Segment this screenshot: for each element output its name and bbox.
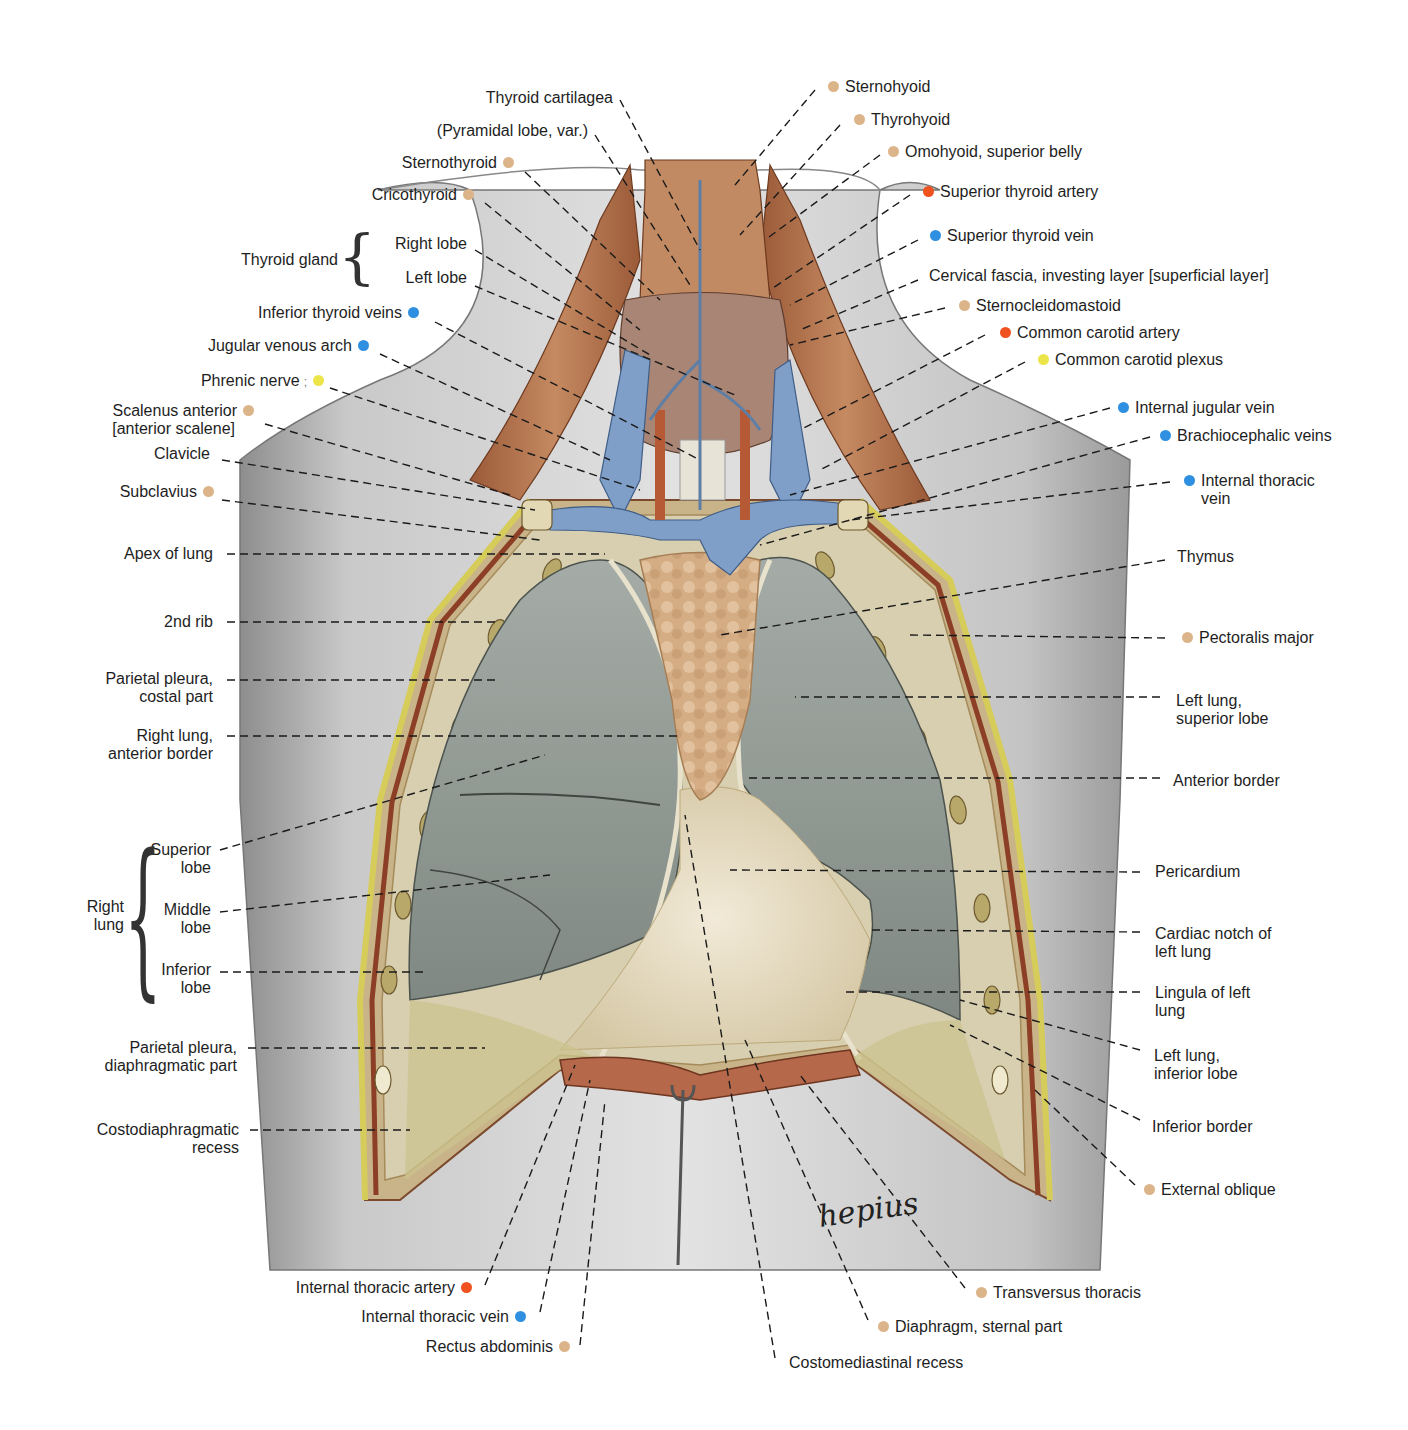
label-text: Middle <box>164 901 211 918</box>
vein-dot-icon <box>1160 430 1171 441</box>
label-common-carotid-artery: Common carotid artery <box>994 324 1180 342</box>
label-pectoralis-major: Pectoralis major <box>1176 629 1314 647</box>
label-internal-jugular-vein: Internal jugular vein <box>1112 399 1275 417</box>
label-text: Scalenus anterior <box>112 402 237 419</box>
label-superior-thyroid-vein: Superior thyroid vein <box>924 227 1094 245</box>
label-subclavius: Subclavius <box>60 483 220 501</box>
muscle-dot-icon <box>828 81 839 92</box>
label-text: [anterior scalene] <box>112 420 235 437</box>
label-text: Sternocleidomastoid <box>976 297 1121 314</box>
label-text: Thyroid gland <box>241 251 338 268</box>
label-text: diaphragmatic part <box>104 1057 237 1074</box>
nerve-dot-icon <box>313 375 324 386</box>
label-clavicle: Clavicle <box>60 445 210 463</box>
label-diaphragm-sternal-part: Diaphragm, sternal part <box>872 1318 1062 1336</box>
label-text: Cricothyroid <box>372 186 457 203</box>
label-omohyoid: Omohyoid, superior belly <box>882 143 1082 161</box>
label-internal-thoracic-artery: Internal thoracic artery <box>240 1279 478 1297</box>
label-cricothyroid: Cricothyroid <box>320 186 480 204</box>
label-text: Cardiac notch of <box>1155 925 1272 942</box>
label-text: Internal thoracic artery <box>296 1279 455 1296</box>
muscle-dot-icon <box>559 1341 570 1352</box>
label-pyramidal-lobe: (Pyramidal lobe, var.) <box>400 122 588 140</box>
label-left-lobe: Left lobe <box>360 269 467 287</box>
label-text: costal part <box>139 688 213 705</box>
label-text: superior lobe <box>1176 710 1269 727</box>
label-thyrohyoid: Thyrohyoid <box>848 111 950 129</box>
label-text: vein <box>1178 490 1230 507</box>
label-parietal-pleura-costal: Parietal pleura,costal part <box>60 670 213 706</box>
label-left-lung-inferior-lobe: Left lung,inferior lobe <box>1154 1047 1238 1083</box>
label-thyroid-cartilagea: Thyroid cartilagea <box>445 89 613 107</box>
label-text: Thymus <box>1177 548 1234 565</box>
vein-dot-icon <box>930 230 941 241</box>
vein-dot-icon <box>1184 475 1195 486</box>
label-cervical-fascia: Cervical fascia, investing layer [superf… <box>929 267 1269 285</box>
label-parietal-pleura-diaphragmatic: Parietal pleura,diaphragmatic part <box>60 1039 237 1075</box>
label-text: inferior lobe <box>1154 1065 1238 1082</box>
label-text: Lingula of left <box>1155 984 1250 1001</box>
label-text: Inferior <box>161 961 211 978</box>
label-brachiocephalic-veins: Brachiocephalic veins <box>1154 427 1332 445</box>
label-text: Transversus thoracis <box>993 1284 1141 1301</box>
label-text: recess <box>192 1139 239 1156</box>
label-superior-thyroid-artery: Superior thyroid artery <box>917 183 1098 201</box>
vein-dot-icon <box>515 1311 526 1322</box>
label-text: Inferior border <box>1152 1118 1253 1135</box>
label-right-lung-anterior-border: Right lung,anterior border <box>60 727 213 763</box>
label-text: anterior border <box>108 745 213 762</box>
label-text: Left lobe <box>406 269 467 286</box>
muscle-dot-icon <box>503 157 514 168</box>
label-sternothyroid: Sternothyroid <box>360 154 520 172</box>
muscle-dot-icon <box>243 405 254 416</box>
nerve-dot-icon <box>1038 354 1049 365</box>
label-text: Left lung, <box>1176 692 1242 709</box>
label-right-lobe: Right lobe <box>360 235 467 253</box>
label-rectus-abdominis: Rectus abdominis <box>380 1338 576 1356</box>
label-sternohyoid: Sternohyoid <box>822 78 930 96</box>
label-text: lobe <box>181 859 211 876</box>
label-anterior-border: Anterior border <box>1173 772 1280 790</box>
muscle-dot-icon <box>976 1287 987 1298</box>
artery-dot-icon <box>461 1282 472 1293</box>
label-text: Phrenic nerve <box>201 372 300 389</box>
label-text: left lung <box>1155 943 1211 960</box>
label-text: Sternohyoid <box>845 78 930 95</box>
label-text: Omohyoid, superior belly <box>905 143 1082 160</box>
label-transversus-thoracis: Transversus thoracis <box>970 1284 1141 1302</box>
label-costodiaphragmatic-recess: Costodiaphragmaticrecess <box>60 1121 239 1157</box>
label-text: Clavicle <box>154 445 210 462</box>
label-text: Thyrohyoid <box>871 111 950 128</box>
label-text: Internal jugular vein <box>1135 399 1275 416</box>
label-text: Left lung, <box>1154 1047 1220 1064</box>
label-text: Pericardium <box>1155 863 1240 880</box>
label-text: Costodiaphragmatic <box>97 1121 239 1138</box>
label-text: Superior thyroid artery <box>940 183 1098 200</box>
muscle-dot-icon <box>878 1321 889 1332</box>
muscle-dot-icon <box>1182 632 1193 643</box>
label-text: Subclavius <box>120 483 197 500</box>
label-text: Common carotid artery <box>1017 324 1180 341</box>
label-thyroid-gland: Thyroid gland <box>210 251 338 269</box>
label-internal-thoracic-vein-right: Internal thoracicvein <box>1178 472 1315 508</box>
label-2nd-rib: 2nd rib <box>60 613 213 631</box>
label-middle-lobe: Middlelobe <box>100 901 211 937</box>
label-text: lobe <box>181 919 211 936</box>
label-text: Thyroid cartilagea <box>486 89 613 106</box>
label-inferior-thyroid-veins: Inferior thyroid veins <box>200 304 425 322</box>
muscle-dot-icon <box>854 114 865 125</box>
label-text: Anterior border <box>1173 772 1280 789</box>
label-text: Brachiocephalic veins <box>1177 427 1332 444</box>
vein-dot-icon <box>1118 402 1129 413</box>
label-text: Cervical fascia, investing layer [superf… <box>929 267 1269 284</box>
label-inferior-lobe: Inferiorlobe <box>100 961 211 997</box>
label-text: lung <box>1155 1002 1185 1019</box>
label-internal-thoracic-vein-bottom: Internal thoracic vein <box>300 1308 532 1326</box>
label-text: Internal thoracic <box>1201 472 1315 489</box>
muscle-dot-icon <box>463 189 474 200</box>
label-text: (Pyramidal lobe, var.) <box>437 122 588 139</box>
label-text: Apex of lung <box>124 545 213 562</box>
label-text: Common carotid plexus <box>1055 351 1223 368</box>
muscle-dot-icon <box>1144 1184 1155 1195</box>
label-text: Internal thoracic vein <box>361 1308 509 1325</box>
